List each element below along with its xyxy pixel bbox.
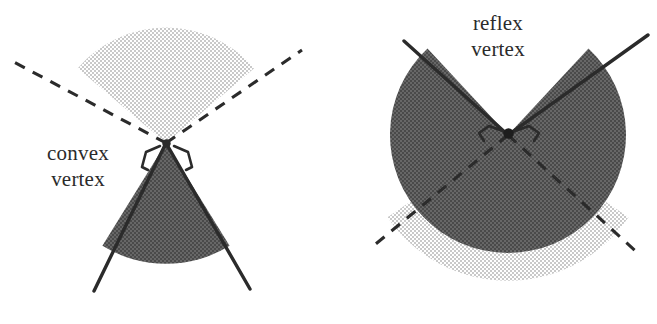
reflex-vertex-point: [503, 128, 513, 138]
geometry-diagram: convex vertex reflex vertex: [0, 0, 657, 324]
diagram-container: convex vertex reflex vertex: [0, 0, 657, 324]
reflex-label-line-1: reflex: [473, 11, 523, 35]
convex-label-line-1: convex: [47, 141, 109, 165]
convex-label-line-2: vertex: [51, 167, 105, 191]
convex-vertex-point: [162, 139, 170, 147]
reflex-label-line-2: vertex: [471, 37, 525, 61]
